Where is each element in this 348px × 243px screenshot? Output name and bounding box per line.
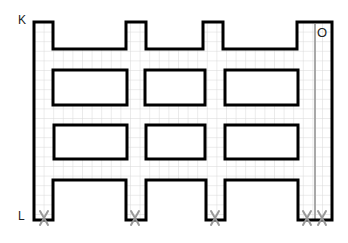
block-r1-c3 (225, 70, 298, 105)
block-r1-c2 (145, 70, 205, 105)
label-l: L (18, 210, 25, 222)
block-r2-c3 (225, 125, 298, 159)
x-marks (40, 211, 326, 225)
block-r2-c2 (146, 125, 205, 159)
floor-plan-diagram (0, 0, 348, 243)
block-r2-c1 (54, 125, 127, 159)
label-o: O (317, 26, 327, 39)
block-r1-c1 (53, 70, 127, 105)
label-k: K (18, 14, 26, 26)
